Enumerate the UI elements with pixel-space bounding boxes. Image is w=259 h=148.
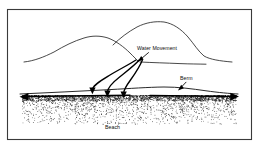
sand-dot <box>195 98 196 99</box>
sand-dot <box>220 100 221 101</box>
sand-dot <box>89 109 90 110</box>
sand-dot <box>93 100 94 101</box>
sand-dot <box>193 99 194 100</box>
sand-dot <box>76 100 77 101</box>
sand-dot <box>119 100 120 101</box>
sand-dot <box>216 117 217 118</box>
sand-dot <box>116 120 117 121</box>
sand-dot <box>182 106 183 107</box>
sand-dot <box>39 116 40 117</box>
sand-dot <box>180 99 181 100</box>
sand-dot <box>124 102 125 103</box>
sand-dot <box>33 122 34 123</box>
sand-dot <box>136 110 137 111</box>
sand-dot <box>174 104 175 105</box>
sand-dot <box>125 110 126 111</box>
sand-dot <box>174 100 175 101</box>
sand-dot <box>147 98 148 99</box>
sand-dot <box>31 100 32 101</box>
sand-dot <box>97 100 98 101</box>
sand-dot <box>89 98 90 99</box>
sand-dot <box>96 99 97 100</box>
sand-dot <box>179 106 180 107</box>
sand-dot <box>156 97 157 98</box>
sand-dot <box>92 97 93 98</box>
sand-dot <box>207 102 208 103</box>
sand-dot <box>187 97 188 98</box>
sand-dot <box>163 106 164 107</box>
sand-dot <box>194 101 195 102</box>
sand-dot <box>164 123 165 124</box>
sand-dot <box>201 119 202 120</box>
sand-dot <box>168 114 169 115</box>
sand-dot <box>42 102 43 103</box>
sand-dot <box>144 101 145 102</box>
sand-dot <box>116 118 117 119</box>
sand-dot <box>78 120 79 121</box>
sand-dot <box>160 98 161 99</box>
sand-dot <box>98 100 99 101</box>
sand-dot <box>139 100 140 101</box>
berm-label: Berm <box>180 75 193 81</box>
sand-dot <box>41 109 42 110</box>
sand-dot <box>202 104 203 105</box>
sand-dot <box>130 97 131 98</box>
sand-dot <box>58 106 59 107</box>
sand-dot <box>199 99 200 100</box>
sand-dot <box>171 119 172 120</box>
sand-dot <box>174 116 175 117</box>
sand-dot <box>208 98 209 99</box>
sand-dot <box>99 98 100 99</box>
sand-dot <box>42 119 43 120</box>
sand-dot <box>59 99 60 100</box>
sand-dot <box>103 116 104 117</box>
sand-dot <box>108 100 109 101</box>
sand-dot <box>131 95 132 96</box>
sand-dot <box>233 104 234 105</box>
sand-dot <box>159 98 160 99</box>
sand-dot <box>188 106 189 107</box>
sand-dot <box>157 97 158 98</box>
sand-dot <box>133 95 134 96</box>
sand-dot <box>103 100 104 101</box>
sand-dot <box>36 107 37 108</box>
sand-dot <box>195 112 196 113</box>
sand-dot <box>122 123 123 124</box>
sand-dot <box>52 100 53 101</box>
sand-dot <box>87 97 88 98</box>
sand-dot <box>173 117 174 118</box>
sand-dot <box>231 119 232 120</box>
sand-dot <box>98 99 99 100</box>
sand-dot <box>184 102 185 103</box>
sand-dot <box>120 110 121 111</box>
sand-dot <box>116 97 117 98</box>
sand-dot <box>44 98 45 99</box>
sand-dot <box>87 111 88 112</box>
sand-dot <box>168 101 169 102</box>
sand-dot <box>50 118 51 119</box>
sand-dot <box>168 103 169 104</box>
sand-dot <box>88 101 89 102</box>
sand-dot <box>171 116 172 117</box>
sand-dot <box>163 108 164 109</box>
sand-dot <box>128 100 129 101</box>
sand-dot <box>134 97 135 98</box>
sand-dot <box>103 111 104 112</box>
sand-dot <box>133 97 134 98</box>
sand-dot <box>201 99 202 100</box>
sand-dot <box>150 97 151 98</box>
sand-dot <box>22 106 23 107</box>
sand-dot <box>186 109 187 110</box>
sand-dot <box>216 113 217 114</box>
sand-dot <box>229 99 230 100</box>
sand-dot <box>133 102 134 103</box>
sand-dot <box>151 112 152 113</box>
sand-dot <box>59 108 60 109</box>
sand-dot <box>190 116 191 117</box>
sand-dot <box>137 100 138 101</box>
sand-dot <box>202 103 203 104</box>
sand-dot <box>151 110 152 111</box>
sand-dot <box>72 104 73 105</box>
sand-dot <box>142 104 143 105</box>
sand-dot <box>123 123 124 124</box>
